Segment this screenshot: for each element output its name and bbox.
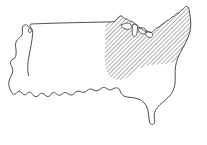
us-map-svg xyxy=(0,0,207,145)
us-map-figure xyxy=(0,0,207,145)
lake-michigan-outline xyxy=(132,24,137,36)
